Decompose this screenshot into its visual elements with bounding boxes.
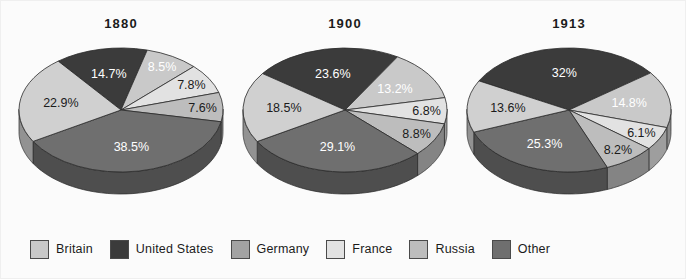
pie-canvas-1880: 14.7%8.5%7.8%7.6%38.5%22.9% <box>12 32 230 211</box>
pie-value-label: 8.8% <box>402 127 431 141</box>
legend-item-russia[interactable]: Russia <box>409 240 474 259</box>
pie-value-label: 8.2% <box>604 143 633 157</box>
pie-svg: 32%14.8%6.1%8.2%25.3%13.6% <box>460 32 678 207</box>
legend-item-france[interactable]: France <box>326 240 392 259</box>
legend-item-other[interactable]: Other <box>492 240 550 259</box>
legend-item-germany[interactable]: Germany <box>231 240 310 259</box>
pie-chart-1913: 1913 32%14.8%6.1%8.2%25.3%13.6% <box>456 2 682 220</box>
legend-label: Germany <box>257 242 310 256</box>
legend-swatch-icon <box>231 240 250 259</box>
pie-value-label: 13.6% <box>490 101 525 115</box>
pie-svg: 23.6%13.2%6.8%8.8%29.1%18.5% <box>236 32 454 207</box>
pie-svg: 14.7%8.5%7.8%7.6%38.5%22.9% <box>12 32 230 207</box>
pie-value-label: 6.8% <box>412 104 441 118</box>
legend-swatch-icon <box>409 240 428 259</box>
pie-chart-1900: 1900 23.6%13.2%6.8%8.8%29.1%18.5% <box>232 2 458 220</box>
charts-row: 1880 14.7%8.5%7.8%7.6%38.5%22.9% 1900 23… <box>0 2 686 220</box>
pie-value-label: 18.5% <box>266 101 301 115</box>
pie-value-label: 8.5% <box>148 60 177 74</box>
pie-chart-1880: 1880 14.7%8.5%7.8%7.6%38.5%22.9% <box>8 2 234 220</box>
pie-title-1913: 1913 <box>456 16 682 31</box>
pie-value-label: 7.8% <box>177 78 206 92</box>
legend-label: France <box>352 242 392 256</box>
pie-canvas-1900: 23.6%13.2%6.8%8.8%29.1%18.5% <box>236 32 454 211</box>
pie-title-1880: 1880 <box>8 16 234 31</box>
pie-value-label: 7.6% <box>188 101 217 115</box>
chart-legend: BritainUnited StatesGermanyFranceRussiaO… <box>0 232 686 266</box>
legend-item-britain[interactable]: Britain <box>30 240 93 259</box>
legend-label: Russia <box>435 242 474 256</box>
legend-swatch-icon <box>30 240 49 259</box>
pie-chart-figure: 1880 14.7%8.5%7.8%7.6%38.5%22.9% 1900 23… <box>0 0 686 279</box>
legend-swatch-icon <box>492 240 511 259</box>
pie-value-label: 14.8% <box>611 96 646 110</box>
pie-value-label: 32% <box>552 66 577 80</box>
pie-canvas-1913: 32%14.8%6.1%8.2%25.3%13.6% <box>460 32 678 211</box>
pie-value-label: 23.6% <box>315 67 350 81</box>
legend-label: United States <box>136 242 214 256</box>
pie-title-1900: 1900 <box>232 16 458 31</box>
pie-value-label: 29.1% <box>320 140 355 154</box>
pie-value-label: 25.3% <box>527 137 562 151</box>
legend-swatch-icon <box>326 240 345 259</box>
legend-label: Other <box>518 242 550 256</box>
pie-value-label: 22.9% <box>43 96 78 110</box>
legend-item-united-states[interactable]: United States <box>110 240 214 259</box>
pie-value-label: 38.5% <box>114 140 149 154</box>
legend-label: Britain <box>56 242 93 256</box>
pie-value-label: 13.2% <box>377 82 412 96</box>
pie-value-label: 6.1% <box>627 126 656 140</box>
pie-value-label: 14.7% <box>91 67 126 81</box>
legend-swatch-icon <box>110 240 129 259</box>
